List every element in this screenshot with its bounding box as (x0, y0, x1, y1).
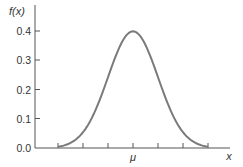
x-axis-label: x (225, 150, 232, 162)
y-tick-label-0.1: 0.1 (16, 113, 31, 125)
y-tick-label-0.3: 0.3 (16, 54, 31, 66)
density-curve (58, 31, 208, 146)
normal-distribution-chart: 0.4 0.3 0.2 0.1 0.0 f(x) μ x (0, 0, 243, 167)
y-tick-label-0.2: 0.2 (16, 84, 31, 96)
x-tick-label-mu: μ (129, 151, 136, 163)
y-tick-label-0.0: 0.0 (16, 142, 31, 154)
y-ticks (35, 31, 40, 119)
x-ticks (58, 143, 208, 148)
y-tick-label-0.4: 0.4 (16, 25, 31, 37)
y-axis-label: f(x) (9, 5, 25, 17)
